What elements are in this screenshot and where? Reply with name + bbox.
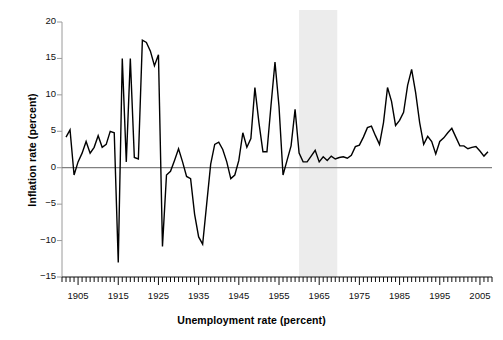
- y-tick-label: −15: [20, 270, 56, 281]
- y-tick-label: 15: [20, 51, 56, 62]
- x-tick-label: 2005: [460, 290, 500, 301]
- x-tick-label: 1955: [259, 290, 299, 301]
- inflation-unemployment-chart: Inflation rate (percent) −15−10−50510152…: [0, 0, 503, 340]
- highlight-band: [299, 10, 337, 277]
- y-tick-label: 20: [20, 15, 56, 26]
- series-line-0: [66, 40, 488, 262]
- x-tick-label: 1975: [339, 290, 379, 301]
- x-tick-label: 1985: [380, 290, 420, 301]
- y-tick-label: 0: [20, 161, 56, 172]
- x-tick-label: 1905: [58, 290, 98, 301]
- y-tick-label: −10: [20, 234, 56, 245]
- x-tick-label: 1945: [219, 290, 259, 301]
- x-tick-label: 1935: [179, 290, 219, 301]
- x-tick-label: 1995: [420, 290, 460, 301]
- x-tick-label: 1925: [138, 290, 178, 301]
- x-tick-label: 1915: [98, 290, 138, 301]
- x-axis-title: Unemployment rate (percent): [0, 314, 503, 326]
- y-tick-label: 10: [20, 88, 56, 99]
- plot-area: [0, 0, 503, 340]
- y-tick-label: 5: [20, 124, 56, 135]
- y-tick-label: −5: [20, 197, 56, 208]
- x-tick-label: 1965: [299, 290, 339, 301]
